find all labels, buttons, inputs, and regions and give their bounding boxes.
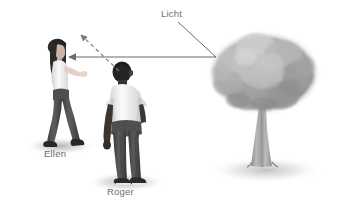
label-licht: Licht (161, 8, 182, 19)
label-roger: Roger (107, 186, 134, 197)
rays-layer (0, 0, 337, 208)
sight-line-dashed (81, 35, 119, 71)
licht-leader-line (178, 22, 216, 57)
label-ellen: Ellen (44, 148, 66, 159)
optics-diagram: Licht Ellen Roger (0, 0, 337, 208)
